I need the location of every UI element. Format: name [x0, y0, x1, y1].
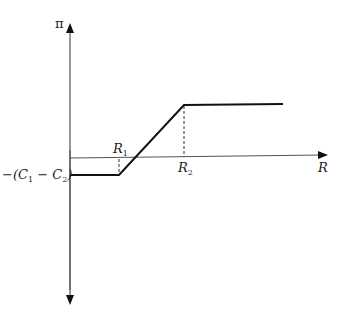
r1-label: R1 — [112, 141, 128, 158]
payoff-curve — [70, 104, 283, 175]
r2-label: R2 — [177, 160, 193, 177]
x-axis — [70, 155, 323, 158]
y-intercept-label: −(C1 − C2) — [2, 167, 72, 184]
payoff-diagram: π R R1 R2 −(C1 − C2) — [0, 0, 344, 319]
x-axis-label: R — [317, 160, 328, 175]
y-axis-label: π — [55, 16, 64, 31]
